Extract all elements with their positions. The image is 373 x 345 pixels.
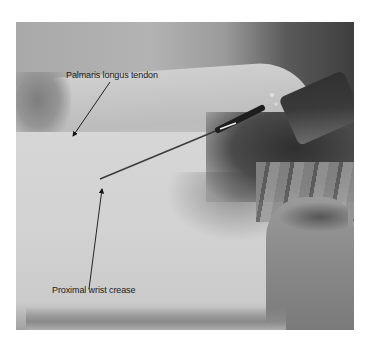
- proximal-wrist-crease-label: Proximal wrist crease: [52, 285, 135, 295]
- palmaris-arrow-icon: [73, 82, 110, 136]
- hub-glint: [274, 102, 278, 106]
- crease-arrow-icon: [89, 189, 102, 289]
- hub-glint: [270, 93, 274, 97]
- needle: [100, 130, 218, 179]
- palmaris-longus-label: Palmaris longus tendon: [66, 70, 158, 80]
